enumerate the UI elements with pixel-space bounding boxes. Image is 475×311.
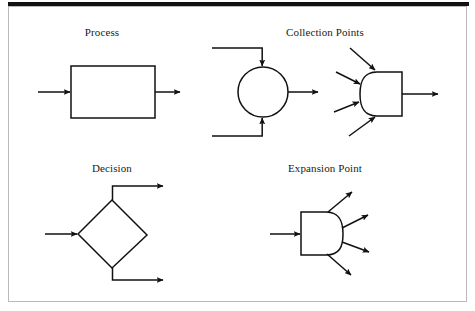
expansion-dshape-body: [301, 212, 343, 255]
expansion-output-3: [342, 242, 369, 252]
collection-dshape-body: [360, 72, 402, 116]
figure-decision: [45, 186, 163, 280]
collection-dshape-input-4: [349, 117, 375, 136]
collection-dshape-input-3: [334, 102, 359, 112]
decision-output-bottom: [113, 268, 164, 280]
expansion-output-4: [327, 254, 351, 275]
process-rectangle: [71, 66, 155, 118]
collection-dshape-input-2: [336, 72, 360, 84]
decision-output-top: [113, 186, 164, 200]
diagram-page: Process Collection Points Decision Expan…: [0, 0, 475, 311]
figure-process: [38, 66, 180, 118]
figure-collection-circle: [212, 48, 318, 136]
collection-circle-shape: [238, 67, 288, 117]
diagram-canvas: [0, 0, 475, 311]
collection-circle-input-bottom: [212, 118, 262, 136]
figure-collection-dshape: [334, 48, 438, 136]
collection-dshape-input-1: [350, 48, 375, 70]
decision-diamond: [78, 200, 147, 268]
figure-expansion-point: [270, 192, 369, 275]
expansion-output-1: [328, 192, 352, 212]
collection-circle-input-top: [212, 48, 262, 66]
expansion-output-2: [342, 215, 368, 228]
